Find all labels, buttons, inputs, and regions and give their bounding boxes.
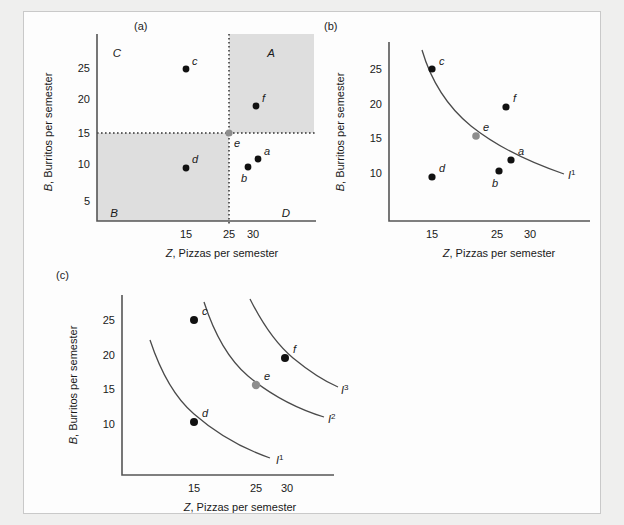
panel-a-xtick-25: 25 bbox=[223, 228, 235, 240]
curve-label-i1: I1 bbox=[568, 168, 576, 181]
point-label-d: d bbox=[192, 153, 199, 165]
point-label-e: e bbox=[483, 121, 489, 133]
panel-c-plot: 25 20 15 10 15 25 30 c f e d I1 I2 I3 B,… bbox=[32, 257, 362, 515]
region-label-d: D bbox=[282, 207, 290, 219]
panel-b-ytick-20: 20 bbox=[370, 98, 382, 110]
panel-b-xtick-15: 15 bbox=[426, 228, 438, 240]
panel-c-ytick-10: 10 bbox=[103, 418, 115, 430]
panel-b-plot: 25 20 15 10 15 25 30 c f e d a b I1 bbox=[314, 12, 602, 262]
panel-c-axes bbox=[122, 295, 334, 475]
panel-b-xtick-25: 25 bbox=[491, 228, 503, 240]
panel-c-ytick-15: 15 bbox=[103, 383, 115, 395]
panel-c-ytick-25: 25 bbox=[103, 314, 115, 326]
point-f bbox=[281, 354, 289, 362]
point-f bbox=[502, 103, 509, 110]
point-label-b: b bbox=[492, 177, 498, 189]
point-label-a: a bbox=[264, 145, 270, 157]
panel-a-ylabel: B, Burritos per semester bbox=[42, 72, 54, 191]
point-label-c: c bbox=[439, 55, 445, 67]
panel-b-ytick-10: 10 bbox=[370, 167, 382, 179]
panel-a-ytick-10: 10 bbox=[78, 158, 90, 170]
point-label-e: e bbox=[264, 370, 270, 382]
point-label-b: b bbox=[241, 172, 247, 184]
panel-a-xtick-15: 15 bbox=[180, 228, 192, 240]
point-a bbox=[255, 156, 262, 163]
panel-a-xtick-30: 30 bbox=[247, 228, 259, 240]
point-d bbox=[183, 165, 190, 172]
panel-b-ylabel: B, Burritos per semester bbox=[334, 72, 346, 191]
panel-a-plot: 25 20 15 10 5 15 25 30 A B C D c f e d a bbox=[24, 12, 324, 262]
point-d bbox=[428, 173, 435, 180]
point-label-a: a bbox=[518, 145, 524, 157]
point-f bbox=[253, 103, 260, 110]
panel-c-ytick-20: 20 bbox=[103, 349, 115, 361]
panel-c-ylabel: B, Burritos per semester bbox=[67, 325, 79, 444]
point-label-e: e bbox=[234, 137, 240, 149]
point-e bbox=[252, 381, 260, 389]
panel-b-label: (b) bbox=[324, 20, 337, 32]
point-label-f: f bbox=[293, 343, 297, 355]
panel-b-ytick-15: 15 bbox=[370, 132, 382, 144]
curve-i1 bbox=[422, 50, 564, 174]
panel-b-ytick-25: 25 bbox=[370, 63, 382, 75]
curve-label-i1: I1 bbox=[276, 453, 284, 466]
point-b bbox=[245, 164, 252, 171]
panel-c-label: (c) bbox=[56, 269, 69, 281]
panel-a-ytick-15: 15 bbox=[78, 127, 90, 139]
panel-b: 25 20 15 10 15 25 30 c f e d a b I1 bbox=[314, 12, 602, 262]
panel-b-xlabel: Z, Pizzas per semester bbox=[442, 247, 556, 259]
point-c bbox=[183, 66, 190, 73]
point-label-c: c bbox=[192, 55, 198, 67]
point-label-f: f bbox=[513, 92, 517, 104]
panel-a: 25 20 15 10 5 15 25 30 A B C D c f e d a bbox=[24, 12, 324, 262]
panel-b-xtick-30: 30 bbox=[524, 228, 536, 240]
panel-c: 25 20 15 10 15 25 30 c f e d I1 I2 I3 B,… bbox=[32, 257, 362, 515]
figure-frame: 25 20 15 10 5 15 25 30 A B C D c f e d a bbox=[23, 11, 601, 514]
point-b bbox=[495, 167, 502, 174]
panel-a-label: (a) bbox=[134, 20, 147, 32]
point-c bbox=[428, 65, 435, 72]
panel-c-xtick-15: 15 bbox=[188, 482, 200, 494]
panel-a-ytick-5: 5 bbox=[84, 195, 90, 207]
point-e bbox=[472, 132, 480, 140]
region-label-b: B bbox=[110, 207, 118, 219]
region-label-a: A bbox=[266, 47, 275, 59]
panel-c-xtick-25: 25 bbox=[250, 482, 262, 494]
point-c bbox=[190, 316, 198, 324]
region-label-c: C bbox=[113, 47, 122, 59]
panel-b-axes bbox=[389, 42, 590, 221]
curve-i1 bbox=[150, 340, 270, 458]
point-label-d: d bbox=[202, 407, 209, 419]
point-label-d: d bbox=[439, 162, 446, 174]
point-e bbox=[225, 129, 232, 136]
curve-i2 bbox=[204, 302, 324, 417]
panel-c-xlabel: Z, Pizzas per semester bbox=[183, 501, 297, 513]
curve-label-i3: I3 bbox=[341, 383, 349, 396]
curve-label-i2: I2 bbox=[328, 412, 336, 425]
panel-a-ytick-20: 20 bbox=[78, 93, 90, 105]
panel-c-xtick-30: 30 bbox=[281, 482, 293, 494]
panel-a-ytick-25: 25 bbox=[78, 62, 90, 74]
point-a bbox=[507, 156, 514, 163]
point-d bbox=[190, 418, 198, 426]
point-label-c: c bbox=[202, 305, 208, 317]
